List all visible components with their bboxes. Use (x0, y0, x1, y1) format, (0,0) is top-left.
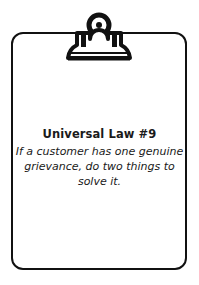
clipboard-clip-icon (63, 12, 135, 66)
card-title: Universal Law #9 (11, 127, 188, 141)
card-body-text: If a customer has one genuine grievance,… (14, 144, 185, 189)
